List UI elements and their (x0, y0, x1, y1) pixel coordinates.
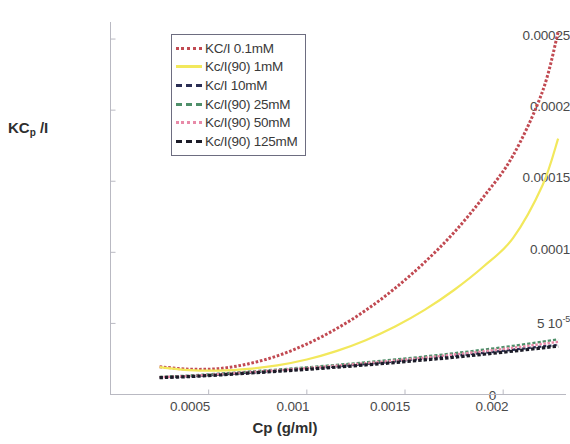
legend-swatch-0 (176, 47, 202, 50)
chart-figure: KCp /I 0.00025 0.0002 0.00015 0.0001 5 1… (0, 0, 570, 444)
legend-label-4: Kc/I(90) 50mM (205, 115, 290, 130)
legend-item-5[interactable]: Kc/I(90) 125mM (176, 132, 298, 151)
legend-item-2[interactable]: Kc/I 10mM (176, 76, 298, 95)
legend-label-2: Kc/I 10mM (205, 78, 267, 93)
legend: KC/I 0.1mM Kc/I(90) 1mM Kc/I 10mM Kc/I(9… (171, 34, 306, 156)
legend-item-4[interactable]: Kc/I(90) 50mM (176, 113, 298, 132)
y-tick-marks (111, 39, 116, 323)
legend-label-5: Kc/I(90) 125mM (205, 134, 298, 149)
legend-swatch-2 (176, 84, 202, 87)
legend-label-1: Kc/I(90) 1mM (205, 59, 283, 74)
legend-swatch-4 (176, 121, 202, 124)
legend-swatch-3 (176, 103, 202, 106)
legend-label-3: Kc/I(90) 25mM (205, 97, 290, 112)
legend-item-0[interactable]: KC/I 0.1mM (176, 39, 298, 58)
legend-swatch-1 (176, 65, 202, 68)
legend-label-0: KC/I 0.1mM (205, 41, 274, 56)
series-line-1 (160, 139, 559, 371)
legend-item-1[interactable]: Kc/I(90) 1mM (176, 58, 298, 77)
x-tick-marks (209, 390, 504, 395)
legend-item-3[interactable]: Kc/I(90) 25mM (176, 95, 298, 114)
legend-swatch-5 (176, 140, 202, 143)
